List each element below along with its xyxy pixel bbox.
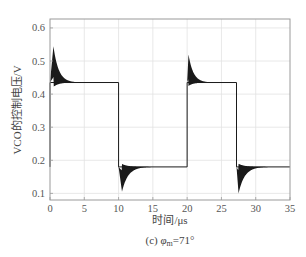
chart: 05101520253035 0.10.20.30.40.50.6 时间/μs … [0, 0, 306, 257]
x-tick-label: 30 [250, 203, 261, 214]
x-tick-label: 5 [82, 203, 87, 214]
y-tick-label: 0.5 [32, 56, 45, 67]
caption-prefix: (c) [146, 234, 161, 247]
x-tick-label: 15 [148, 203, 159, 214]
y-tick-label: 0.2 [32, 155, 45, 166]
x-tick-label: 0 [47, 203, 52, 214]
x-tick-label: 20 [182, 203, 193, 214]
x-axis-label: 时间/μs [152, 214, 187, 226]
x-tick-label: 25 [216, 203, 227, 214]
y-tick-label: 0.1 [32, 188, 45, 199]
y-tick-label: 0.6 [32, 22, 45, 33]
caption-suffix: =71° [173, 234, 195, 246]
x-tick-label: 35 [285, 203, 296, 214]
y-axis-label: VCO的控制电压/V [10, 65, 23, 154]
y-tick-label: 0.3 [32, 122, 45, 133]
x-tick-label: 10 [113, 203, 124, 214]
y-tick-label: 0.4 [32, 89, 46, 100]
